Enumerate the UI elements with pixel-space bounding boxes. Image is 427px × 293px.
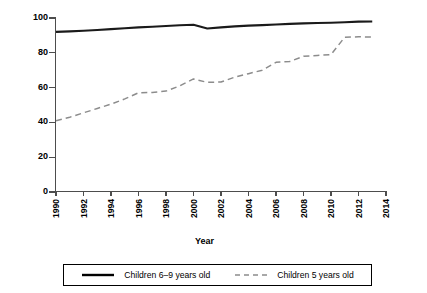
line-chart: Percent of children attending school 020… [0,0,427,293]
series-line [56,21,372,31]
legend-solid-swatch [81,270,115,280]
legend-label: Children 5 years old [277,270,353,280]
x-axis-title: Year [0,236,427,246]
legend-label: Children 6–9 years old [124,270,210,280]
series-line [56,37,372,121]
chart-legend: Children 6–9 years oldChildren 5 years o… [63,264,372,286]
x-axis-title-text: Year [195,236,214,246]
legend-dashed-swatch [234,270,268,280]
plot-lines [0,0,427,293]
